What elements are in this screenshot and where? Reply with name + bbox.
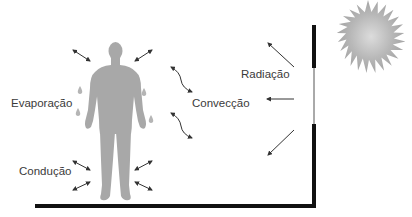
sun-icon <box>337 0 406 73</box>
evaporation-label: Evaporação <box>11 98 72 110</box>
floor-line <box>35 204 316 208</box>
wall-with-window <box>312 25 316 208</box>
heat-exchange-diagram: Evaporação Condução Convecção Radiação <box>0 0 412 217</box>
convection-arrows <box>171 67 192 138</box>
radiation-label: Radiação <box>241 69 290 81</box>
human-figure <box>85 42 146 200</box>
radiation-arrows <box>267 43 294 155</box>
conduction-label: Condução <box>19 166 71 178</box>
convection-label: Convecção <box>192 98 250 110</box>
